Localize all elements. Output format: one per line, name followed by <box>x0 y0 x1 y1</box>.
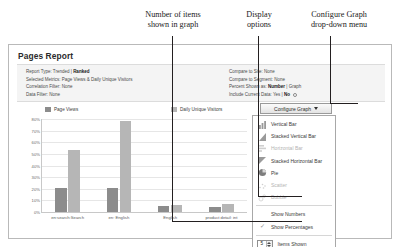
y-axis-tick-label: 60% <box>32 140 40 145</box>
meta-value: Page Views & Daily Unique Visitors <box>62 77 133 82</box>
legend-item-page-views: Page Views <box>45 107 78 112</box>
chart-plot-area: 80%70%60%50%40%30%20%10%0%en:search:Sear… <box>41 119 247 213</box>
radio-indicator-icon[interactable] <box>293 93 297 97</box>
menu-item-stacked-vertical-bar[interactable]: Stacked Vertical Bar <box>253 130 335 142</box>
y-axis-tick-label: 50% <box>32 151 40 156</box>
x-axis-tick-label: en:search:Search <box>51 215 84 220</box>
items-shown-stepper[interactable]: 5 <box>257 240 273 247</box>
chart-bar <box>171 205 183 212</box>
meta-report-type: Report Type: Trended | Ranked <box>26 68 226 76</box>
annotation-items-shown: Number of items shown in graph <box>138 10 208 29</box>
configure-graph-dropdown: Vertical Bar Stacked Vertical Bar Horizo… <box>252 115 336 247</box>
meta-value: Trended | <box>53 69 73 74</box>
checkmark-icon: ✓ <box>258 222 267 231</box>
x-axis-tick-label: product detail: int <box>205 215 237 220</box>
y-axis-tick-label: 40% <box>32 163 40 168</box>
meta-value: None <box>49 92 60 97</box>
meta-label: Percent Shown as: <box>229 84 267 89</box>
horizontal-bar-icon <box>258 144 267 153</box>
menu-divider <box>256 235 332 236</box>
x-axis-tick-label: English <box>163 215 177 220</box>
legend-swatch-icon <box>45 107 51 112</box>
meta-label: Compare to Segment: <box>229 77 273 82</box>
items-shown-label: Items Shown <box>278 241 307 247</box>
menu-item-label: Bubble <box>271 194 287 200</box>
chart-bar <box>209 207 221 212</box>
stepper-down-icon[interactable] <box>267 245 271 247</box>
stacked-horizontal-bar-icon <box>258 156 267 165</box>
menu-item-show-numbers[interactable]: Show Numbers <box>253 208 335 220</box>
meta-label: Correlation Filter: <box>26 84 61 89</box>
y-axis-tick-label: 30% <box>32 175 40 180</box>
menu-item-label: Scatter <box>271 182 287 188</box>
menu-item-vertical-bar[interactable]: Vertical Bar <box>253 118 335 130</box>
y-axis-tick-label: 0% <box>34 210 40 215</box>
legend-swatch-icon <box>171 107 177 112</box>
bubble-icon <box>258 193 267 202</box>
meta-compare-to-site: Compare to Site: None <box>229 68 389 76</box>
meta-value-bold: Ranked <box>73 69 89 74</box>
screenshot-root: Number of items shown in graph Display o… <box>0 0 400 247</box>
menu-item-label: Show Numbers <box>271 211 305 217</box>
legend-label: Page Views <box>54 107 78 112</box>
meta-include-current-data: Include Current Data: Yes | No <box>229 91 389 99</box>
vertical-bar-icon <box>258 120 267 129</box>
menu-item-label: Stacked Horizontal Bar <box>271 158 322 164</box>
menu-item-items-shown: 5 Items Shown <box>253 238 335 247</box>
stacked-vertical-bar-icon <box>258 132 267 141</box>
legend-item-daily-unique-visitors: Daily Unique Visitors <box>171 107 222 112</box>
meta-label: Selected Metrics: <box>26 77 61 82</box>
meta-value: None <box>62 84 73 89</box>
meta-column-right: Compare to Site: None Compare to Segment… <box>229 68 389 98</box>
meta-value: Yes | <box>273 92 284 97</box>
menu-item-label: Vertical Bar <box>271 121 297 127</box>
report-meta-panel: Report Type: Trended | Ranked Selected M… <box>17 64 385 102</box>
y-axis-tick-label: 70% <box>32 128 40 133</box>
y-axis-tick-label: 20% <box>32 186 40 191</box>
meta-compare-to-segment: Compare to Segment: None <box>229 76 389 84</box>
meta-value: None <box>274 77 285 82</box>
page-title: Pages Report <box>18 51 73 61</box>
meta-selected-metrics: Selected Metrics: Page Views & Daily Uni… <box>26 76 226 84</box>
annotation-display-options: Display options <box>236 10 282 29</box>
chart-bar <box>158 206 170 212</box>
meta-column-left: Report Type: Trended | Ranked Selected M… <box>26 68 226 98</box>
menu-item-show-percentages[interactable]: ✓ Show Percentages <box>253 221 335 233</box>
menu-item-label: Pie <box>271 170 278 176</box>
scatter-icon <box>258 181 267 190</box>
menu-divider <box>256 205 332 206</box>
meta-label: Report Type: <box>26 69 52 74</box>
meta-label: Compare to Site: <box>229 69 263 74</box>
configure-graph-label: Configure Graph <box>274 106 311 112</box>
meta-value-bold: No <box>284 92 290 97</box>
menu-item-scatter[interactable]: Scatter <box>253 179 335 191</box>
meta-label: Data Filter: <box>26 92 48 97</box>
meta-value: None <box>264 69 275 74</box>
legend-label: Daily Unique Visitors <box>180 107 222 112</box>
stepper-up-icon[interactable] <box>267 242 271 244</box>
chart-gridline <box>42 142 247 143</box>
items-shown-value: 5 <box>258 240 266 247</box>
menu-item-label: Horizontal Bar <box>271 145 303 151</box>
menu-item-label: Show Percentages <box>271 224 313 230</box>
configure-graph-button[interactable]: Configure Graph <box>260 103 332 114</box>
chart-bar <box>107 188 119 212</box>
chart-bar <box>55 188 67 212</box>
meta-data-filter: Data Filter: None <box>26 91 226 99</box>
chart-gridline <box>42 119 247 120</box>
x-axis-tick-label: en: English <box>109 215 130 220</box>
chart-bar <box>68 150 80 212</box>
menu-item-label: Stacked Vertical Bar <box>271 133 316 139</box>
meta-value: | Graph <box>285 84 301 89</box>
menu-item-pie[interactable]: Pie <box>253 167 335 179</box>
chart-bar <box>120 121 132 212</box>
annotation-configure-menu: Configure Graph drop-down menu <box>294 10 384 29</box>
stepper-arrows[interactable] <box>266 241 272 247</box>
menu-item-stacked-horizontal-bar[interactable]: Stacked Horizontal Bar <box>253 155 335 167</box>
chart-gridline <box>42 131 247 132</box>
pages-report-window: Pages Report Report Type: Trended | Rank… <box>8 44 392 239</box>
menu-item-bubble[interactable]: Bubble <box>253 191 335 203</box>
meta-label: Include Current Data: <box>229 92 272 97</box>
chart-legend: Page Views Daily Unique Visitors <box>33 107 249 117</box>
menu-item-horizontal-bar[interactable]: Horizontal Bar <box>253 142 335 154</box>
